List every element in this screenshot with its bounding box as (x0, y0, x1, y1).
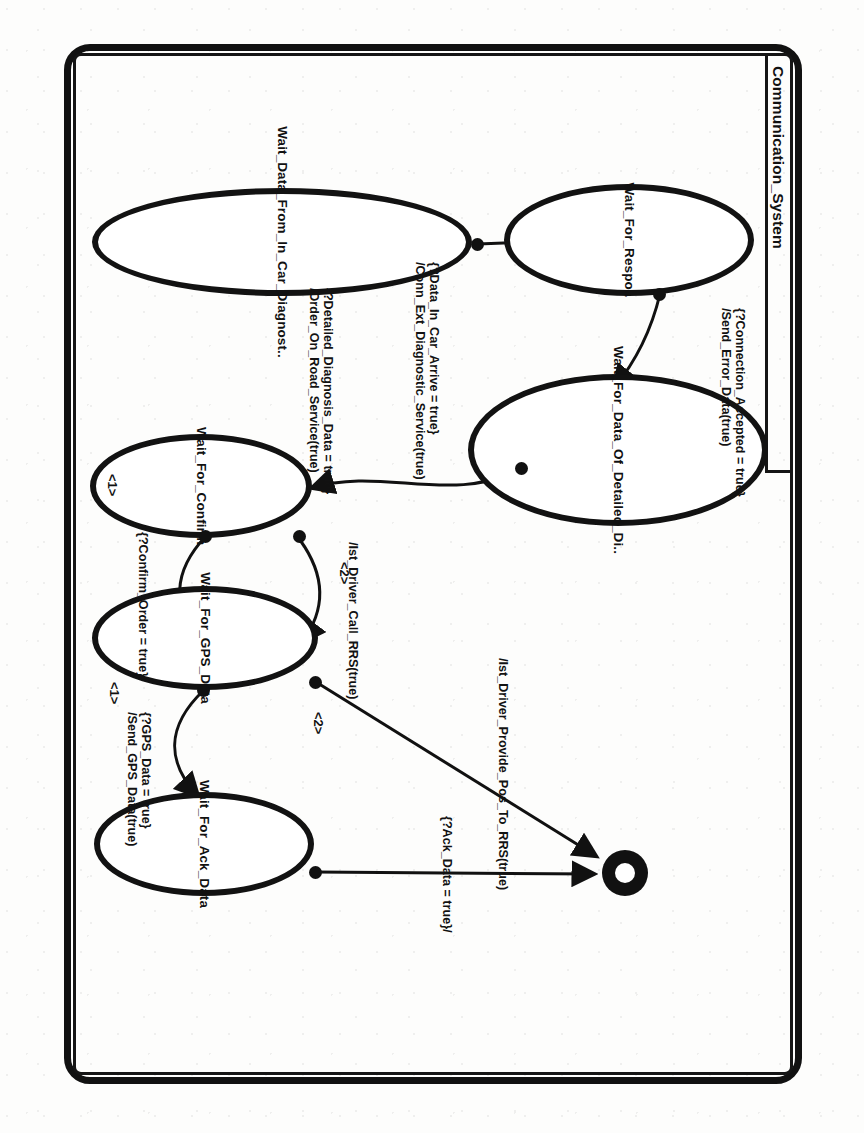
junction-dot (293, 530, 306, 543)
state-label: Wait_Data_From_In_Car_Diagnost.. (275, 126, 290, 358)
transition-action: /Send_Error_Data(true) (718, 308, 732, 497)
transition-label-t7: /Ist_Driver_Provide_Pos_To_RRS(true) (495, 658, 510, 890)
order-marker-t6: <1> (107, 682, 122, 704)
junction-dot (197, 684, 210, 697)
state-label: Wait_For_Ack_Data (197, 780, 212, 908)
transition-action: /Send_GPS_Data(true) (124, 712, 138, 846)
state-label: Wait_For_Confirm (194, 427, 209, 545)
transition-guard: {?Data_In_Car_Arrive = true} (426, 262, 440, 480)
edge-t8 (316, 872, 594, 874)
state-wait-for-response[interactable]: Wait_For_Respo.. (504, 184, 754, 296)
statechart-canvas: Communication_System (52, 36, 812, 1096)
transition-guard: {?Ack_Data = true}/ (439, 816, 454, 933)
state-wait-for-gps-data[interactable]: Wait_For_GPS_Data (92, 586, 318, 690)
transition-action: /Ist_Driver_Provide_Pos_To_RRS(true) (495, 658, 510, 890)
transition-label-t2: {?Connection_Accepted = true} /Send_Erro… (718, 308, 746, 497)
statechart-figure: Communication_System (52, 36, 812, 1096)
transition-action: /Order_On_Road_Service(true) (306, 288, 320, 494)
scanned-page: Communication_System (0, 0, 864, 1133)
final-state-node[interactable] (602, 850, 648, 896)
state-label: Wait_For_Data_Of_Detailed_Di.. (611, 346, 626, 554)
junction-dot (309, 676, 322, 689)
transition-label-t1: {?Data_In_Car_Arrive = true} /Conn_Ext_D… (412, 262, 440, 480)
transition-label-t8: {?Ack_Data = true}/ (439, 816, 454, 933)
junction-dot (515, 462, 528, 475)
transition-label-t6: {?GPS_Data = true} /Send_GPS_Data(true) (124, 712, 152, 846)
junction-dot (199, 530, 212, 543)
junction-dot (309, 866, 322, 879)
transition-guard: {?Connection_Accepted = true} (732, 308, 746, 497)
edge-t7 (316, 682, 596, 856)
order-marker-t7: <2> (311, 712, 326, 734)
order-marker-t4: <1> (105, 474, 120, 496)
state-wait-for-confirm[interactable]: Wait_For_Confirm (90, 434, 312, 538)
junction-dot (653, 288, 666, 301)
transition-guard: {?Confirm_Order = true}/ (135, 532, 150, 681)
transition-guard: {?GPS_Data = true} (138, 712, 152, 846)
transition-action: /Conn_Ext_Diagnostic_Service(true) (412, 262, 426, 480)
transition-label-t4: {?Confirm_Order = true}/ (135, 532, 150, 681)
junction-dot (471, 238, 484, 251)
state-label: Wait_For_Respo.. (622, 182, 637, 297)
transition-label-t3: {?Detailed_Diagnosis_Data = true} /Order… (306, 288, 334, 494)
order-marker-t5: <2> (337, 562, 352, 584)
transition-guard: {?Detailed_Diagnosis_Data = true} (320, 288, 334, 494)
